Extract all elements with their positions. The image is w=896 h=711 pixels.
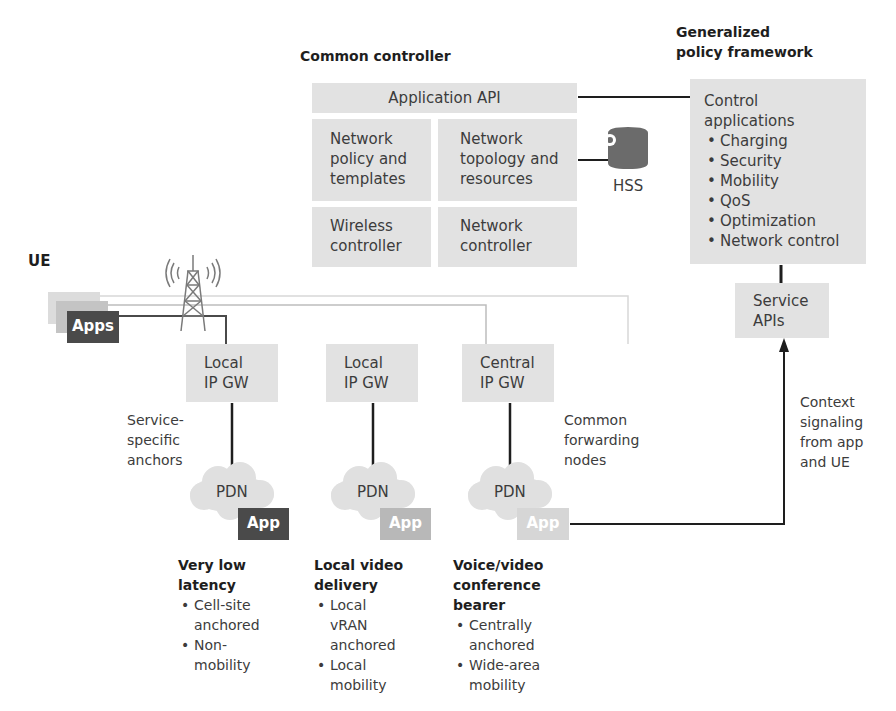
use-case-local-video-delivery: Local video delivery Local vRAN anchored… bbox=[314, 555, 403, 695]
pdn-app-box: App bbox=[238, 508, 289, 540]
bullet-line: mobility bbox=[330, 675, 403, 695]
use-case-title: bearer bbox=[453, 595, 543, 615]
pdn-label: PDN bbox=[494, 482, 526, 502]
network-controller-box: Network controller bbox=[438, 207, 577, 267]
control-applications-heading: Control bbox=[704, 91, 866, 111]
network-policy-box: Network policy and templates bbox=[312, 119, 431, 201]
annotation-line: and UE bbox=[800, 452, 863, 472]
use-case-very-low-latency: Very low latency Cell-site anchored Non-… bbox=[178, 555, 260, 675]
use-case-title: Local video bbox=[314, 555, 403, 575]
service-apis-line: APIs bbox=[753, 311, 829, 331]
use-case-title: Voice/video bbox=[453, 555, 543, 575]
central-ip-gw: Central IP GW bbox=[462, 344, 554, 402]
gateway-line: Local bbox=[344, 353, 418, 373]
annotation-line: Common bbox=[564, 410, 639, 430]
network-policy-line: templates bbox=[330, 169, 431, 189]
gateway-line: Central bbox=[480, 353, 554, 373]
gateway-line: IP GW bbox=[204, 373, 278, 393]
network-controller-line: Network bbox=[460, 216, 577, 236]
annotation-line: signaling bbox=[800, 412, 863, 432]
use-case-title: conference bbox=[453, 575, 543, 595]
bullet-line: Non- bbox=[194, 635, 260, 655]
use-case-bullet: Centrally anchored bbox=[453, 615, 543, 655]
annotation-line: from app bbox=[800, 432, 863, 452]
bullet-line: mobility bbox=[469, 675, 543, 695]
pdn-label: PDN bbox=[216, 482, 248, 502]
pdn-app-box: App bbox=[380, 508, 431, 540]
annotation-line: forwarding bbox=[564, 430, 639, 450]
ue-label: UE bbox=[28, 251, 50, 271]
bullet-line: Centrally bbox=[469, 615, 543, 635]
service-specific-anchors-label: Service- specific anchors bbox=[127, 410, 184, 470]
apps-label: Apps bbox=[72, 317, 114, 335]
pdn-label: PDN bbox=[357, 482, 389, 502]
use-case-bullet: Local vRAN anchored bbox=[314, 595, 403, 655]
control-app-item: Mobility bbox=[704, 171, 866, 191]
annotation-line: Context bbox=[800, 392, 863, 412]
use-case-bullet: Wide-area mobility bbox=[453, 655, 543, 695]
common-forwarding-nodes-label: Common forwarding nodes bbox=[564, 410, 639, 470]
policy-framework-title-line: policy framework bbox=[676, 42, 813, 62]
gateway-line: IP GW bbox=[344, 373, 418, 393]
network-policy-line: Network bbox=[330, 129, 431, 149]
annotation-line: specific bbox=[127, 430, 184, 450]
control-app-item: Security bbox=[704, 151, 866, 171]
control-app-item: Charging bbox=[704, 131, 866, 151]
bullet-line: anchored bbox=[194, 615, 260, 635]
policy-framework-title: Generalized policy framework bbox=[676, 22, 813, 62]
context-signaling-label: Context signaling from app and UE bbox=[800, 392, 863, 472]
control-applications-box: Control applications Charging Security M… bbox=[690, 79, 866, 264]
wireless-controller-line: controller bbox=[330, 236, 431, 256]
network-topology-line: resources bbox=[460, 169, 577, 189]
database-icon bbox=[608, 127, 648, 169]
local-ip-gw-1: Local IP GW bbox=[186, 344, 278, 402]
application-api-box: Application API bbox=[312, 83, 577, 113]
application-api-label: Application API bbox=[388, 89, 500, 107]
control-app-item: Optimization bbox=[704, 211, 866, 231]
bullet-line: Local bbox=[330, 595, 403, 615]
bullet-line: Local bbox=[330, 655, 403, 675]
bullet-line: vRAN bbox=[330, 615, 403, 635]
use-case-bullet: Non- mobility bbox=[178, 635, 260, 675]
ue-apps-device: Apps bbox=[67, 311, 119, 343]
use-case-title: latency bbox=[178, 575, 260, 595]
wireless-controller-line: Wireless bbox=[330, 216, 431, 236]
bullet-line: Cell-site bbox=[194, 595, 260, 615]
control-app-item: Network control bbox=[704, 231, 866, 251]
annotation-line: nodes bbox=[564, 450, 639, 470]
control-app-item: QoS bbox=[704, 191, 866, 211]
common-controller-title: Common controller bbox=[300, 46, 451, 66]
service-apis-box: Service APIs bbox=[735, 283, 829, 338]
annotation-line: anchors bbox=[127, 450, 184, 470]
bullet-line: anchored bbox=[330, 635, 403, 655]
use-case-bullet: Local mobility bbox=[314, 655, 403, 695]
network-controller-line: controller bbox=[460, 236, 577, 256]
app-label: App bbox=[526, 514, 559, 532]
pdn-app-box: App bbox=[517, 508, 569, 540]
network-topology-line: Network bbox=[460, 129, 577, 149]
hss-label: HSS bbox=[613, 176, 643, 196]
gateway-line: Local bbox=[204, 353, 278, 373]
bullet-line: anchored bbox=[469, 635, 543, 655]
cell-tower-icon bbox=[160, 253, 226, 333]
annotation-line: Service- bbox=[127, 410, 184, 430]
gateway-line: IP GW bbox=[480, 373, 554, 393]
app-label: App bbox=[389, 514, 422, 532]
policy-framework-title-line: Generalized bbox=[676, 22, 813, 42]
network-topology-box: Network topology and resources bbox=[438, 119, 577, 201]
use-case-voice-video-conference: Voice/video conference bearer Centrally … bbox=[453, 555, 543, 695]
use-case-title: Very low bbox=[178, 555, 260, 575]
bullet-line: mobility bbox=[194, 655, 260, 675]
use-case-title: delivery bbox=[314, 575, 403, 595]
control-applications-heading: applications bbox=[704, 111, 866, 131]
use-case-bullet: Cell-site anchored bbox=[178, 595, 260, 635]
local-ip-gw-2: Local IP GW bbox=[326, 344, 418, 402]
network-topology-line: topology and bbox=[460, 149, 577, 169]
wireless-controller-box: Wireless controller bbox=[312, 207, 431, 267]
app-label: App bbox=[247, 514, 280, 532]
network-policy-line: policy and bbox=[330, 149, 431, 169]
bullet-line: Wide-area bbox=[469, 655, 543, 675]
service-apis-line: Service bbox=[753, 291, 829, 311]
